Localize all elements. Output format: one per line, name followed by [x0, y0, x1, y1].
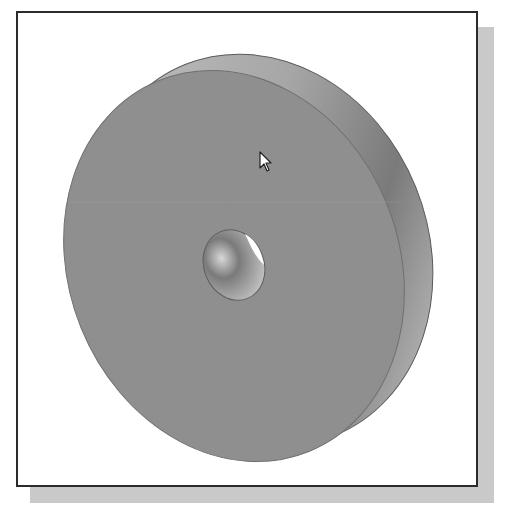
- model-viewport[interactable]: [16, 11, 478, 487]
- washer-model-graphic: [16, 11, 478, 487]
